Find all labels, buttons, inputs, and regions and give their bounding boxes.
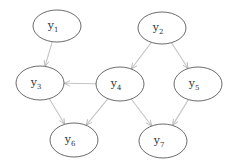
node-y4: y4 <box>96 67 144 101</box>
edge-y3-to-y6 <box>49 99 64 125</box>
node-y1: y1 <box>33 10 81 42</box>
edge-y2-to-y4 <box>131 42 151 69</box>
node-y6: y6 <box>50 123 98 157</box>
node-y2: y2 <box>138 12 186 44</box>
edge-y5-to-y7 <box>173 100 189 126</box>
arrow-line <box>45 42 52 67</box>
arrow-line <box>173 100 189 126</box>
arrow-line <box>131 42 151 69</box>
arrow-line <box>131 99 151 126</box>
dependency-graph: y1y2y3y4y5y6y7 <box>0 0 234 168</box>
nodes: y1y2y3y4y5y6y7 <box>16 10 222 158</box>
arrow-line <box>172 43 189 69</box>
arrow-line <box>49 99 64 125</box>
node-y7: y7 <box>139 124 187 158</box>
node-y3: y3 <box>16 66 64 100</box>
node-y5: y5 <box>174 67 222 101</box>
edge-y2-to-y5 <box>172 43 189 69</box>
edge-y1-to-y3 <box>45 42 52 67</box>
arrow-line <box>86 99 108 126</box>
edge-y4-to-y6 <box>86 99 108 126</box>
edge-y4-to-y7 <box>131 99 151 126</box>
